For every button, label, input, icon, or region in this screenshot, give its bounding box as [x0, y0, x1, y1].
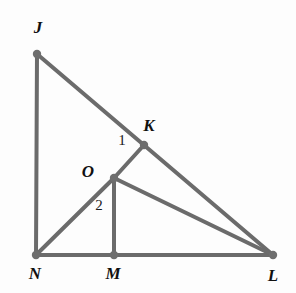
segment-jn	[36, 54, 37, 255]
point-label-k: K	[143, 117, 154, 134]
vertex-dot-m	[110, 251, 118, 259]
segment-on	[36, 178, 114, 255]
geometry-figure: JKONML12	[0, 0, 296, 293]
vertex-dot-l	[269, 251, 277, 259]
vertex-dot-o	[110, 174, 118, 182]
segments-group	[36, 54, 273, 255]
vertex-dot-j	[33, 50, 41, 58]
segment-jl	[37, 54, 273, 255]
point-label-j: J	[34, 19, 43, 36]
angle-2-label: 2	[95, 198, 103, 213]
vertex-dot-n	[32, 251, 40, 259]
point-label-m: M	[105, 265, 120, 282]
diagram-canvas	[0, 0, 296, 293]
angle-1-label: 1	[118, 133, 126, 148]
point-label-l: L	[268, 267, 278, 284]
point-label-o: O	[82, 163, 94, 180]
segment-ko	[114, 145, 144, 178]
vertex-dot-k	[140, 141, 148, 149]
point-label-n: N	[29, 265, 41, 282]
